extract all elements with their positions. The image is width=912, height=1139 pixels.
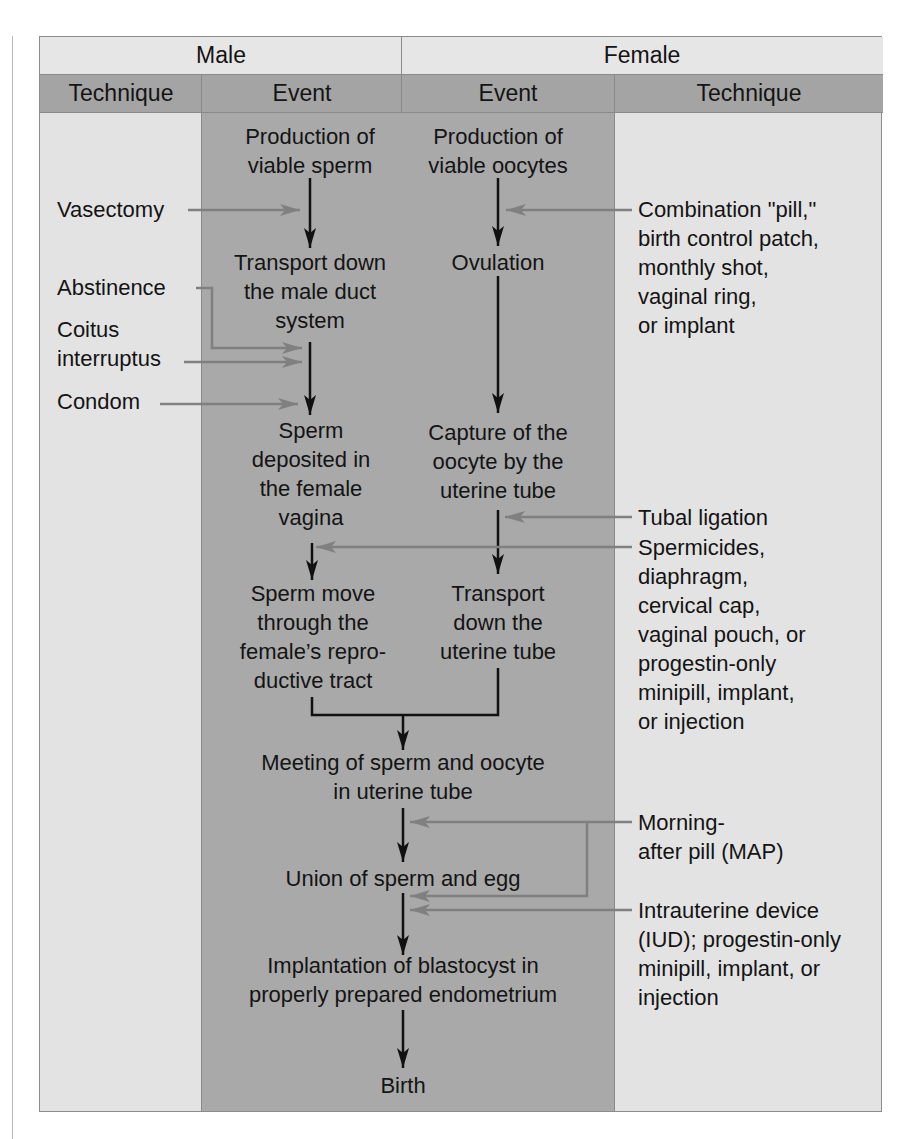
technique-morning-after-pill: Morning- after pill (MAP) — [638, 808, 783, 866]
header-female-technique-cell: Technique — [615, 75, 883, 113]
header-female: Female — [604, 37, 681, 74]
event-sperm-deposited: Sperm deposited in the female vagina — [252, 416, 371, 532]
event-male-duct-transport: Transport down the male duct system — [234, 248, 386, 335]
event-birth: Birth — [380, 1071, 425, 1100]
event-union: Union of sperm and egg — [286, 864, 521, 893]
event-oocyte-production: Production of viable oocytes — [428, 122, 567, 180]
column-male-technique: Technique — [69, 75, 174, 112]
page-margin-line — [12, 36, 13, 1139]
technique-abstinence: Abstinence — [57, 273, 166, 302]
column-female-event: Event — [479, 75, 538, 112]
column-female-technique: Technique — [697, 75, 802, 112]
event-oocyte-capture: Capture of the oocyte by the uterine tub… — [428, 418, 567, 505]
header-male-technique-cell: Technique — [40, 75, 202, 113]
event-sperm-production: Production of viable sperm — [245, 122, 375, 180]
technique-hormonal-combination: Combination "pill," birth control patch,… — [638, 195, 819, 340]
technique-vasectomy: Vasectomy — [57, 195, 164, 224]
event-meeting: Meeting of sperm and oocyte in uterine t… — [261, 748, 545, 806]
event-ovulation: Ovulation — [452, 248, 545, 277]
header-male-cell: Male — [40, 37, 402, 75]
header-female-cell: Female — [402, 37, 883, 75]
header-female-event-cell: Event — [402, 75, 615, 113]
event-uterine-tube-transport: Transport down the uterine tube — [440, 579, 556, 666]
technique-tubal-ligation: Tubal ligation — [638, 503, 768, 532]
header-male-event-cell: Event — [202, 75, 402, 113]
event-implantation: Implantation of blastocyst in properly p… — [249, 951, 557, 1009]
column-male-event: Event — [273, 75, 332, 112]
header-male: Male — [196, 37, 246, 74]
technique-condom: Condom — [57, 387, 140, 416]
event-sperm-move: Sperm move through the female’s repro- d… — [240, 579, 386, 695]
technique-spermicides-barriers: Spermicides, diaphragm, cervical cap, va… — [638, 533, 806, 736]
technique-iud: Intrauterine device (IUD); progestin-onl… — [638, 896, 841, 1012]
technique-coitus-interruptus: Coitus interruptus — [57, 315, 161, 373]
male-technique-column — [40, 113, 202, 1111]
